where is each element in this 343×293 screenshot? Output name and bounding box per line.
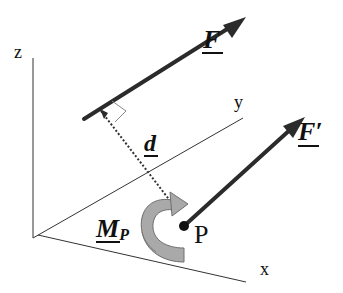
moment-label: MP	[95, 214, 129, 243]
force-vector-f	[84, 17, 246, 119]
point-label: P	[194, 220, 208, 249]
moment-subscript: P	[118, 226, 129, 243]
z-axis-label: z	[14, 42, 22, 62]
moment-symbol: M	[95, 214, 120, 243]
distance-label: d	[144, 130, 157, 156]
arrowhead-icon	[223, 17, 246, 38]
coordinate-axes	[33, 58, 246, 282]
x-axis-label: x	[260, 259, 269, 279]
moment-diagram: z y x F d MP F′	[0, 0, 343, 293]
diagram-canvas: z y x F d MP F′	[0, 0, 343, 293]
force-label: F	[202, 25, 220, 54]
y-axis	[33, 118, 243, 238]
y-axis-label: y	[234, 92, 243, 112]
moved-force-label: F′	[297, 117, 323, 146]
point-p-dot	[179, 221, 189, 231]
x-axis	[38, 235, 246, 282]
distance-line	[101, 111, 171, 202]
force-vector-f-prime	[184, 117, 305, 226]
perpendicular-marker	[112, 101, 126, 122]
